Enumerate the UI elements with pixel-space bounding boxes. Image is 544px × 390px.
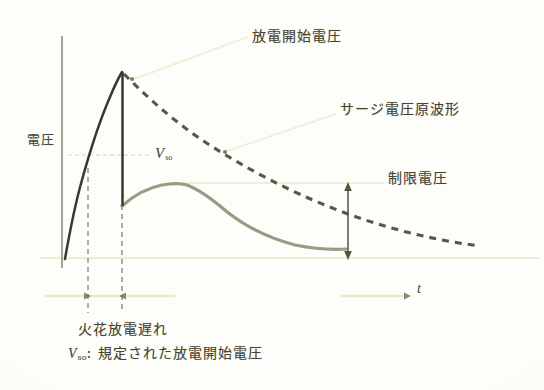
- y-axis-label: 電圧: [27, 132, 45, 147]
- caption-vso-symbol: V: [68, 346, 78, 361]
- curve-discharge-start-rise: [65, 72, 122, 259]
- label-surge-voltage-original-waveform: サージ電圧原波形: [340, 98, 460, 118]
- leader-dot-surge-waveform: [223, 150, 227, 154]
- figure-root: 放電開始電圧 サージ電圧原波形 制限電圧 電圧 t Vso 火花放電遅れ Vso…: [0, 0, 544, 390]
- time-axis-arrowhead: [404, 293, 411, 300]
- curve-limiting-voltage: [122, 184, 346, 250]
- delay-markers: [88, 168, 122, 313]
- leader-dot-discharge-start: [130, 77, 134, 81]
- figure-caption: 火花放電遅れ Vso: 規定された放電開始電圧: [78, 318, 263, 362]
- vso-inline-symbol: V: [155, 145, 165, 161]
- caption-spark-discharge-delay: 火花放電遅れ: [78, 318, 263, 338]
- x-axis-label: t: [417, 281, 422, 297]
- guide-lines: [40, 37, 540, 299]
- caption-vso-definition-text: : 規定された放電開始電圧: [86, 345, 262, 361]
- vso-inline-subscript: so: [165, 153, 172, 162]
- vso-inline-label: Vso: [155, 145, 172, 162]
- leader-line-surge-waveform: [224, 114, 336, 152]
- caption-vso-definition: Vso: 規定された放電開始電圧: [68, 342, 263, 362]
- leader-line-discharge-start: [131, 37, 248, 80]
- label-limiting-voltage: 制限電圧: [388, 167, 448, 187]
- label-discharge-start-voltage: 放電開始電圧: [252, 25, 342, 45]
